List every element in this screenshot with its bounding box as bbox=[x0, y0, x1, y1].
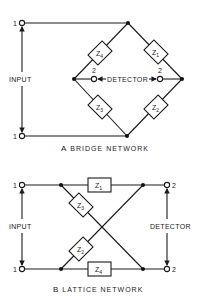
bridge-detector-terminal-right-label: 2 bbox=[158, 67, 162, 74]
bridge-node-bottom bbox=[125, 134, 129, 138]
lattice-node-top-left bbox=[59, 183, 63, 187]
lattice-detector-terminal-bottom-label: 2 bbox=[172, 266, 176, 273]
bridge-node-right bbox=[180, 77, 184, 81]
bridge-input-label: INPUT bbox=[9, 76, 32, 83]
lattice-input-terminal-bottom-label: 1 bbox=[13, 266, 17, 273]
lattice-input-terminal-top-label: 1 bbox=[13, 182, 17, 189]
lattice-detector-terminal-top bbox=[164, 182, 169, 187]
network-diagrams: Z4 Z1 Z3 Z2 1 1 INPUT 2 2 bbox=[0, 0, 204, 300]
lattice-network: Z1 Z4 Z3 Z2 1 1 INPUT 2 2 DETECTOR bbox=[9, 178, 191, 294]
lattice-node-bottom-right bbox=[141, 267, 145, 271]
lattice-caption: BLATTICE NETWORK bbox=[53, 285, 143, 294]
bridge-detector-terminal-left bbox=[91, 76, 96, 81]
lattice-input-terminal-top bbox=[19, 182, 24, 187]
bridge-input-terminal-top-label: 1 bbox=[13, 20, 17, 27]
bridge-detector-label: DETECTOR bbox=[107, 76, 148, 83]
lattice-input-label: INPUT bbox=[9, 223, 32, 230]
lattice-detector-label: DETECTOR bbox=[150, 223, 191, 230]
lattice-detector-terminal-bottom bbox=[164, 266, 169, 271]
bridge-input-terminal-bottom bbox=[19, 133, 24, 138]
lattice-node-bottom-left bbox=[59, 267, 63, 271]
bridge-network: Z4 Z1 Z3 Z2 1 1 INPUT 2 2 bbox=[9, 20, 184, 153]
bridge-node-top bbox=[126, 21, 130, 25]
bridge-input-terminal-bottom-label: 1 bbox=[13, 133, 17, 140]
bridge-detector-terminal-left-label: 2 bbox=[92, 67, 96, 74]
bridge-input-terminal-top bbox=[19, 20, 24, 25]
lattice-node-top-right bbox=[141, 183, 145, 187]
bridge-node-left bbox=[72, 77, 76, 81]
lattice-detector-terminal-top-label: 2 bbox=[172, 182, 176, 189]
bridge-caption: ABRIDGE NETWORK bbox=[61, 144, 149, 153]
lattice-input-terminal-bottom bbox=[19, 266, 24, 271]
bridge-detector-terminal-right bbox=[157, 76, 162, 81]
